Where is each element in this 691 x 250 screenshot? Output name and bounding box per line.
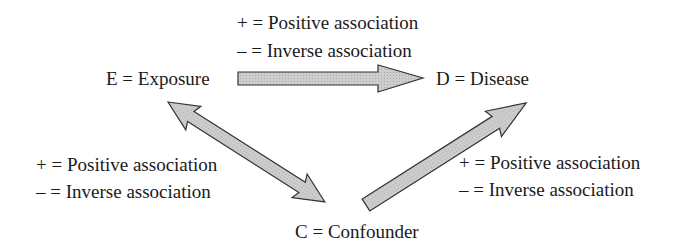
node-exposure: E = Exposure (106, 69, 210, 88)
node-disease: D = Disease (436, 69, 529, 88)
top-legend-positive: + = Positive association (237, 13, 418, 32)
top-legend-inverse: – = Inverse association (237, 41, 412, 60)
node-confounder: C = Confounder (295, 222, 419, 241)
diagram-arrows (0, 0, 691, 250)
left-legend-positive: + = Positive association (36, 155, 217, 174)
right-legend-positive: + = Positive association (459, 153, 640, 172)
exposure-to-disease-arrow (238, 65, 423, 92)
left-legend-inverse: – = Inverse association (36, 182, 211, 201)
right-legend-inverse: – = Inverse association (459, 180, 634, 199)
